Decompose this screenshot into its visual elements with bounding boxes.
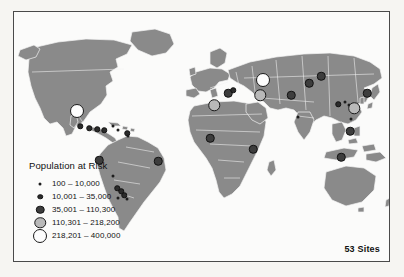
legend-label: 110,301 – 218,200 <box>52 218 120 227</box>
site-marker[interactable] <box>335 101 341 107</box>
site-marker[interactable] <box>208 99 220 111</box>
site-marker[interactable] <box>346 127 355 136</box>
map-legend: Population at Risk 100 – 10,00010,001 – … <box>28 160 188 242</box>
legend-row: 218,201 – 400,000 <box>28 229 188 242</box>
legend-row: 110,301 – 218,200 <box>28 216 188 229</box>
large-grey-circle-icon <box>34 217 46 229</box>
site-marker[interactable] <box>348 102 360 114</box>
tiny-black-dot-icon <box>39 182 42 185</box>
site-count-label: 53 Sites <box>344 244 380 254</box>
site-marker[interactable] <box>337 153 346 162</box>
figure-canvas: Population at Risk 100 – 10,00010,001 – … <box>0 0 404 277</box>
site-marker[interactable] <box>249 145 258 154</box>
site-marker[interactable] <box>363 89 372 98</box>
legend-symbol-c4 <box>28 216 52 229</box>
site-marker[interactable] <box>94 126 100 132</box>
site-marker[interactable] <box>86 125 92 131</box>
site-marker[interactable] <box>117 129 120 132</box>
legend-symbol-c5 <box>28 229 52 242</box>
site-marker[interactable] <box>112 125 115 128</box>
small-dark-circle-icon <box>37 194 43 200</box>
largest-open-circle-icon <box>33 229 47 243</box>
site-marker[interactable] <box>230 87 236 93</box>
legend-rows: 100 – 10,00010,001 – 35,00035,001 – 110,… <box>28 177 188 242</box>
legend-row: 35,001 – 110,300 <box>28 203 188 216</box>
legend-label: 10,001 – 35,000 <box>52 192 111 201</box>
world-map: Population at Risk 100 – 10,00010,001 – … <box>14 12 389 261</box>
site-marker[interactable] <box>317 72 326 81</box>
site-marker[interactable] <box>101 127 107 133</box>
legend-row: 10,001 – 35,000 <box>28 190 188 203</box>
site-marker[interactable] <box>254 89 266 101</box>
legend-symbol-c1 <box>28 177 52 190</box>
site-marker[interactable] <box>70 104 84 118</box>
site-marker[interactable] <box>127 135 130 138</box>
legend-symbol-c3 <box>28 203 52 216</box>
medium-dark-circle-icon <box>36 205 45 214</box>
site-marker[interactable] <box>350 118 353 121</box>
site-marker[interactable] <box>77 123 83 129</box>
map-frame: Population at Risk 100 – 10,00010,001 – … <box>13 11 390 262</box>
site-marker[interactable] <box>305 79 314 88</box>
legend-label: 35,001 – 110,300 <box>52 205 115 214</box>
legend-title: Population at Risk <box>29 160 188 171</box>
legend-label: 218,201 – 400,000 <box>52 231 120 240</box>
site-marker[interactable] <box>206 134 215 143</box>
site-marker[interactable] <box>287 91 296 100</box>
legend-row: 100 – 10,000 <box>28 177 188 190</box>
site-marker[interactable] <box>297 116 300 119</box>
legend-label: 100 – 10,000 <box>52 179 100 188</box>
site-marker[interactable] <box>256 73 270 87</box>
legend-symbol-c2 <box>28 190 52 203</box>
site-marker[interactable] <box>344 101 347 104</box>
